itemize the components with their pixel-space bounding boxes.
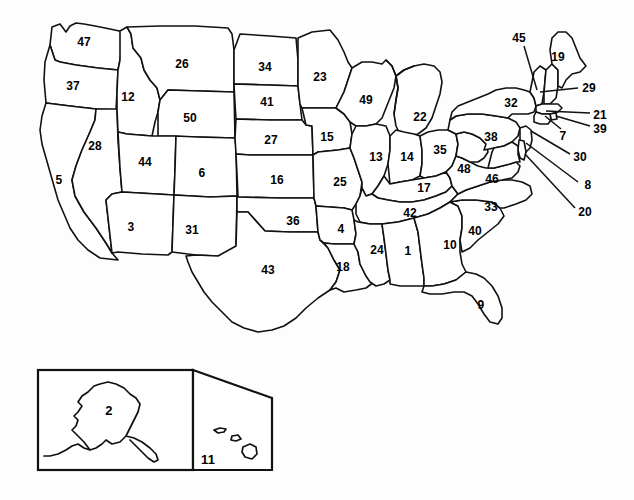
state-label-21: 21 — [593, 109, 607, 121]
state-label-38: 38 — [484, 131, 498, 143]
state-shape-29 — [544, 64, 558, 104]
leader-line-39 — [556, 116, 590, 126]
state-label-15: 15 — [320, 131, 334, 143]
state-shape-3 — [106, 192, 174, 255]
state-label-10: 10 — [443, 239, 457, 251]
state-label-50: 50 — [183, 112, 197, 124]
state-label-43: 43 — [261, 264, 275, 276]
state-label-11: 11 — [201, 453, 215, 466]
state-label-19: 19 — [551, 51, 565, 63]
state-label-28: 28 — [88, 140, 102, 152]
state-shape-22 — [394, 64, 442, 136]
state-label-29: 29 — [582, 82, 596, 94]
state-label-8: 8 — [585, 179, 592, 191]
state-label-20: 20 — [578, 206, 592, 218]
state-label-39: 39 — [593, 123, 607, 135]
state-label-14: 14 — [400, 151, 414, 163]
state-label-27: 27 — [264, 134, 278, 146]
state-label-25: 25 — [333, 176, 347, 188]
state-label-34: 34 — [258, 61, 272, 73]
state-label-41: 41 — [260, 96, 274, 108]
state-label-31: 31 — [185, 224, 199, 236]
state-label-46: 46 — [485, 173, 499, 185]
state-label-47: 47 — [77, 36, 91, 48]
state-label-12: 12 — [121, 91, 135, 103]
state-label-13: 13 — [369, 151, 383, 163]
leader-line-45 — [524, 46, 537, 90]
state-label-16: 16 — [270, 174, 284, 186]
state-label-36: 36 — [286, 215, 300, 227]
state-label-30: 30 — [573, 151, 587, 163]
state-label-23: 23 — [313, 71, 327, 83]
state-shape-32 — [450, 88, 536, 120]
state-label-48: 48 — [457, 163, 471, 175]
state-label-44: 44 — [138, 156, 152, 168]
state-label-49: 49 — [359, 94, 373, 106]
state-label-18: 18 — [336, 261, 350, 273]
state-label-40: 40 — [468, 225, 482, 237]
state-label-17: 17 — [417, 182, 431, 194]
state-label-4: 4 — [338, 223, 345, 235]
state-label-33: 33 — [484, 201, 498, 213]
state-label-24: 24 — [370, 244, 384, 256]
state-label-6: 6 — [199, 167, 206, 179]
leader-line-20 — [525, 154, 575, 208]
us-numbered-map: 47 37 12 26 34 23 41 50 28 44 5 6 27 15 … — [0, 0, 634, 500]
state-label-37: 37 — [66, 80, 80, 92]
state-label-7: 7 — [560, 130, 567, 142]
state-shape-31 — [172, 195, 237, 256]
state-label-35: 35 — [433, 144, 447, 156]
state-label-9: 9 — [478, 299, 485, 311]
state-label-26: 26 — [175, 58, 189, 70]
state-label-32: 32 — [504, 97, 518, 109]
state-label-42: 42 — [403, 207, 417, 219]
state-label-5: 5 — [56, 174, 63, 186]
state-label-22: 22 — [413, 111, 427, 123]
state-label-1: 1 — [405, 245, 412, 257]
state-label-45: 45 — [512, 32, 526, 44]
state-label-3: 3 — [128, 221, 135, 233]
state-shape-4 — [316, 206, 356, 244]
state-label-2: 2 — [105, 404, 112, 417]
